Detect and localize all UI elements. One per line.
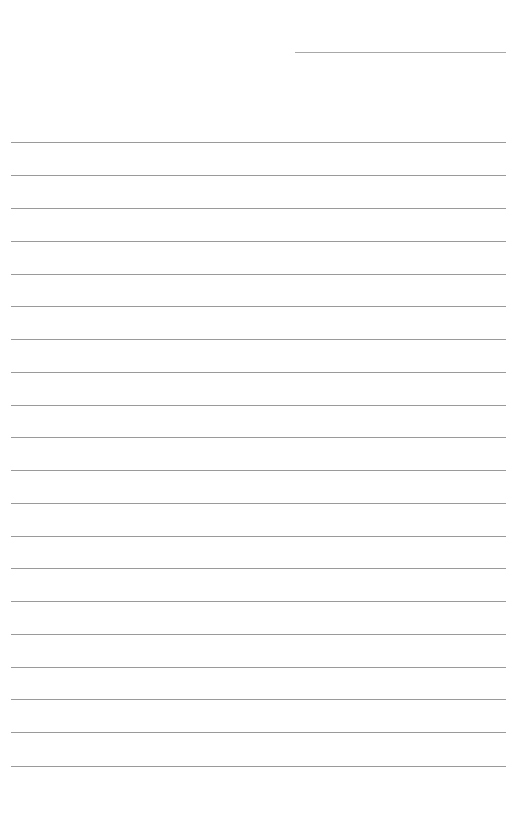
- ruled-line: [11, 732, 506, 733]
- ruled-line: [11, 667, 506, 668]
- ruled-line: [11, 372, 506, 373]
- ruled-line: [11, 536, 506, 537]
- ruled-line: [11, 175, 506, 176]
- ruled-line: [11, 241, 506, 242]
- ruled-line: [11, 339, 506, 340]
- header-name-line: [295, 52, 506, 53]
- ruled-line: [11, 470, 506, 471]
- ruled-line: [11, 601, 506, 602]
- ruled-line: [11, 634, 506, 635]
- ruled-line: [11, 208, 506, 209]
- ruled-line: [11, 306, 506, 307]
- ruled-line: [11, 699, 506, 700]
- lined-paper-page: [0, 0, 522, 838]
- ruled-line: [11, 503, 506, 504]
- ruled-line: [11, 142, 506, 143]
- ruled-line: [11, 437, 506, 438]
- ruled-line: [11, 766, 506, 767]
- ruled-line: [11, 274, 506, 275]
- ruled-line: [11, 568, 506, 569]
- ruled-line: [11, 405, 506, 406]
